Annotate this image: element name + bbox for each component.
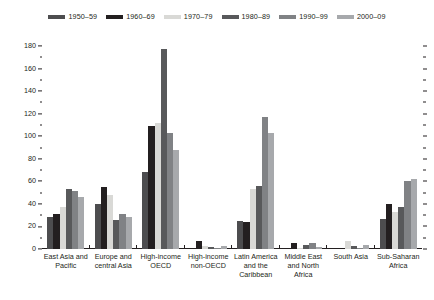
legend-label: 1970–79 (184, 13, 213, 20)
legend-item: 1990–99 (279, 13, 328, 20)
tick-mark (423, 91, 427, 92)
tick-mark (423, 237, 426, 238)
x-axis-label-line: Europe and (91, 252, 137, 261)
y-axis-right-tick (422, 192, 426, 193)
y-axis-right-tick (422, 57, 426, 58)
bar-groups (42, 46, 422, 249)
y-axis-tick-label: 0 (32, 245, 36, 252)
tick-mark (423, 158, 427, 159)
y-axis-tick-major: 40 (28, 200, 42, 207)
y-axis-tick-major: 100 (24, 133, 42, 140)
y-axis-tick-label: 140 (24, 88, 36, 95)
bar (316, 247, 322, 249)
legend-item: 2000–09 (337, 13, 386, 20)
y-axis-right-tick (422, 147, 426, 148)
x-axis-category-label: Sub-SaharanAfrica (375, 252, 423, 280)
x-axis-category-label: Middle Eastand NorthAfrica (280, 252, 328, 280)
tick-mark (423, 147, 426, 148)
legend-swatch-icon (106, 15, 123, 19)
y-axis-tick-label: 180 (24, 42, 36, 49)
x-axis-label-line: Sub-Saharan (376, 252, 422, 261)
x-axis-category-label: East Asia andPacific (42, 252, 90, 280)
bar (363, 245, 369, 250)
y-axis-tick-major: 180 (24, 42, 42, 49)
x-axis-label-line: South Asia (328, 252, 374, 261)
x-axis-label-line: non-OECD (186, 261, 232, 270)
y-axis-tick-major: 80 (28, 155, 42, 162)
bar-group (90, 46, 138, 249)
tick-mark (423, 181, 427, 182)
x-axis-label-line: High-income (186, 252, 232, 261)
x-axis-category-label: South Asia (327, 252, 375, 280)
tick-mark (423, 170, 426, 171)
tick-mark (423, 226, 427, 227)
legend-label: 2000–09 (357, 13, 386, 20)
bar-group (42, 46, 90, 249)
chart-legend: 1950–591960–691970–791980–891990–992000–… (0, 13, 434, 20)
tick-mark (423, 46, 427, 47)
y-axis-right-tick (422, 91, 427, 92)
tick-mark (423, 68, 427, 69)
y-axis-right-tick (422, 237, 426, 238)
plot-area: 020406080100120140160180 (42, 46, 422, 249)
legend-item: 1950–59 (48, 13, 97, 20)
tick-mark (423, 113, 427, 114)
y-axis-tick-major: 60 (28, 178, 42, 185)
x-axis-label-line: Middle East (281, 252, 327, 261)
tick-mark (423, 136, 427, 137)
tick-mark (423, 102, 426, 103)
y-axis-right-tick (422, 102, 426, 103)
bar-group (280, 46, 328, 249)
y-axis-right-tick (422, 136, 427, 137)
bar (411, 179, 417, 249)
tick-mark (423, 79, 426, 80)
x-axis-label-line: and North (281, 261, 327, 270)
chart-root: 1950–591960–691970–791980–891990–992000–… (0, 0, 434, 300)
x-axis-label-line: central Asia (91, 261, 137, 270)
y-axis-tick-label: 100 (24, 133, 36, 140)
y-axis-tick-major: 140 (24, 88, 42, 95)
bar (173, 150, 179, 249)
x-axis-labels: East Asia andPacificEurope andcentral As… (42, 252, 422, 280)
legend-label: 1960–69 (126, 13, 155, 20)
bar-group (137, 46, 185, 249)
y-axis-right-tick (422, 46, 427, 47)
bar-group (232, 46, 280, 249)
legend-label: 1980–89 (242, 13, 271, 20)
y-axis-tick-label: 60 (28, 178, 36, 185)
bar-group (375, 46, 423, 249)
y-axis-right-tick (422, 181, 427, 182)
y-axis-right-tick (422, 158, 427, 159)
legend-item: 1960–69 (106, 13, 155, 20)
y-axis-tick-label: 40 (28, 200, 36, 207)
y-axis-right-tick (422, 170, 426, 171)
tick-mark (423, 215, 426, 216)
x-axis-category-label: High-incomenon-OECD (185, 252, 233, 280)
x-axis-label-line: East Asia and (43, 252, 89, 261)
x-axis-label-line: OECD (138, 261, 184, 270)
x-axis-label-line: High-income (138, 252, 184, 261)
tick-mark (423, 192, 426, 193)
x-axis-label-line: Caribbean (233, 270, 279, 279)
x-axis-label-line: Pacific (43, 261, 89, 270)
x-axis-category-label: Europe andcentral Asia (90, 252, 138, 280)
tick-mark (423, 249, 427, 250)
y-axis-right-tick (422, 249, 427, 250)
y-axis-tick-major: 120 (24, 110, 42, 117)
legend-item: 1980–89 (222, 13, 271, 20)
y-axis-tick-major: 20 (28, 223, 42, 230)
y-axis-tick-label: 20 (28, 223, 36, 230)
tick-mark (423, 203, 427, 204)
x-axis-label-line: Africa (281, 270, 327, 279)
y-axis-right-tick (422, 226, 427, 227)
y-axis-tick-major: 0 (32, 245, 42, 252)
bar-group (185, 46, 233, 249)
x-axis-label-line: and the (233, 261, 279, 270)
x-axis-category-label: Latin Americaand theCaribbean (232, 252, 280, 280)
y-axis-right-tick (422, 215, 426, 216)
y-axis-tick-label: 120 (24, 110, 36, 117)
y-axis-right-tick (422, 68, 427, 69)
tick-mark (423, 57, 426, 58)
y-axis-tick-major: 160 (24, 65, 42, 72)
legend-label: 1990–99 (299, 13, 328, 20)
